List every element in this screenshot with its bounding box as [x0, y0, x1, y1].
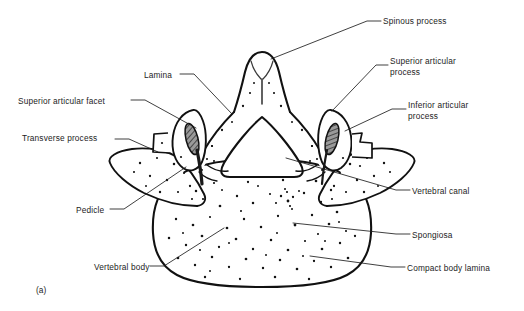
- label-vertebral-canal: Vertebral canal: [412, 186, 470, 197]
- label-lamina: Lamina: [144, 70, 172, 81]
- label-pedicle: Pedicle: [76, 205, 104, 216]
- vertebra-figure: Spinous processSuperior articular proces…: [0, 0, 524, 311]
- right-inferior-articular-process: [352, 133, 372, 158]
- leader-superior-articular-process: [332, 65, 388, 111]
- spinous-process-outline: [234, 52, 290, 112]
- label-compact-body-lamina: Compact body lamina: [407, 263, 490, 274]
- label-inferior-articular-process: Inferior articular process: [408, 100, 468, 121]
- figure-caption: (a): [36, 285, 46, 295]
- label-transverse-process: Transverse process: [22, 133, 97, 144]
- label-spinous-process: Spinous process: [383, 16, 447, 27]
- label-spongiosa: Spongiosa: [412, 230, 453, 241]
- leader-lamina: [180, 74, 232, 114]
- label-vertebral-body: Vertebral body: [94, 262, 150, 273]
- leader-inferior-articular-process: [345, 109, 406, 131]
- label-superior-articular-facet: Superior articular facet: [18, 96, 105, 107]
- label-superior-articular-process: Superior articular process: [390, 56, 456, 77]
- vertebral-canal-outline: [221, 117, 302, 177]
- leader-spinous-process: [271, 21, 381, 59]
